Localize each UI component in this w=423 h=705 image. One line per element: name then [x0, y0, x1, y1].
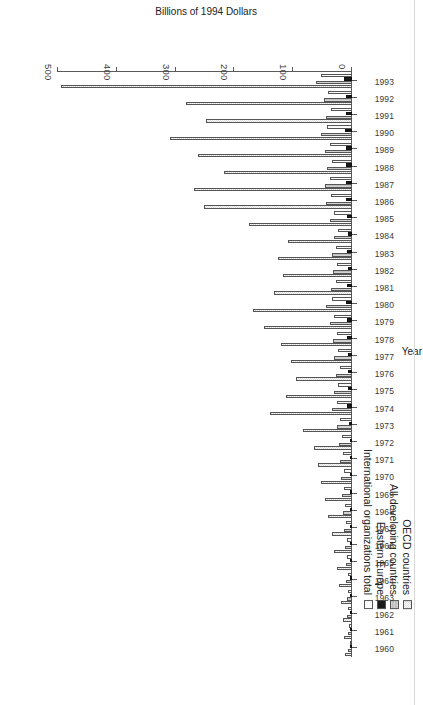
year-label: 1983	[360, 249, 394, 259]
category-tick	[352, 544, 357, 545]
bar	[346, 521, 352, 524]
bar	[296, 377, 352, 380]
plot-area: 0100200300400500 19601961196219631964196…	[58, 72, 352, 657]
category-tick	[352, 613, 357, 614]
bar	[332, 532, 352, 535]
bar	[338, 349, 352, 352]
category-tick	[352, 114, 357, 115]
bar	[337, 332, 352, 335]
value-tick-label: 300	[161, 64, 172, 80]
bar	[303, 429, 352, 432]
bar	[328, 515, 352, 518]
bar	[253, 309, 352, 312]
category-tick	[352, 234, 357, 235]
bar	[349, 422, 352, 425]
bar	[347, 538, 352, 541]
year-label: 1960	[360, 644, 394, 654]
value-tick-label: 0	[337, 64, 348, 69]
bar	[346, 563, 352, 566]
year-label: 1984	[360, 231, 394, 241]
bar	[350, 645, 352, 648]
year-label: 1992	[360, 94, 394, 104]
bar	[350, 473, 352, 476]
year-label: 1961	[360, 627, 394, 637]
bar	[336, 246, 352, 249]
bar	[274, 291, 352, 294]
bar	[341, 601, 352, 604]
year-label: 1964	[360, 576, 394, 586]
value-axis-title: Billions of 1994 Dollars	[155, 6, 257, 17]
year-label: 1970	[360, 472, 394, 482]
bar	[330, 177, 352, 180]
bar	[342, 435, 352, 438]
bar	[337, 567, 352, 570]
bar	[336, 280, 352, 283]
bar	[325, 150, 352, 153]
bar	[332, 297, 352, 300]
legend-label: International organizations total	[362, 449, 374, 595]
value-tick	[351, 67, 352, 72]
category-tick	[352, 252, 357, 253]
bar	[336, 374, 352, 377]
bar	[350, 525, 352, 528]
bar	[346, 301, 352, 304]
bar	[286, 395, 352, 398]
bar	[350, 559, 352, 562]
bar	[339, 443, 352, 446]
bar	[348, 267, 352, 270]
year-label: 1972	[360, 438, 394, 448]
year-label: 1969	[360, 490, 394, 500]
bar	[330, 322, 352, 325]
bar	[325, 184, 352, 187]
bar	[337, 401, 352, 404]
bar	[332, 253, 352, 256]
category-tick	[352, 80, 357, 81]
bar	[350, 576, 352, 579]
bar	[334, 550, 352, 553]
category-tick	[352, 166, 357, 167]
bar	[339, 584, 352, 587]
bar	[314, 446, 352, 449]
bar	[344, 636, 352, 639]
bar	[346, 580, 352, 583]
bar	[186, 102, 352, 105]
bar	[343, 452, 352, 455]
bar	[224, 171, 352, 174]
bar	[328, 91, 352, 94]
value-tick-label: 400	[102, 64, 113, 80]
bar	[345, 546, 352, 549]
bar	[345, 504, 352, 507]
category-tick	[352, 183, 357, 184]
bar	[343, 511, 352, 514]
bar	[337, 263, 352, 266]
bar	[330, 219, 352, 222]
category-tick	[352, 355, 357, 356]
bar	[347, 250, 352, 253]
year-label: 1967	[360, 524, 394, 534]
bar	[194, 188, 352, 191]
rotated-figure-frame: OECD countriesAll developing countriesEa…	[0, 0, 423, 705]
category-tick	[352, 217, 357, 218]
bar	[344, 487, 352, 490]
category-tick	[352, 97, 357, 98]
bar	[347, 555, 352, 558]
bar	[348, 573, 352, 576]
bar	[348, 607, 352, 610]
bar	[346, 112, 352, 115]
bar	[326, 202, 352, 205]
value-tick	[233, 67, 234, 72]
value-tick	[292, 67, 293, 72]
value-tick	[116, 67, 117, 72]
year-label: 1976	[360, 369, 394, 379]
category-tick	[352, 372, 357, 373]
value-tick	[175, 67, 176, 72]
year-label: 1993	[360, 77, 394, 87]
value-tick	[57, 67, 58, 72]
bar	[334, 357, 352, 360]
bar	[321, 133, 352, 136]
year-label: 1965	[360, 558, 394, 568]
bar	[318, 464, 352, 467]
category-tick	[352, 424, 357, 425]
category-tick	[352, 200, 357, 201]
bar	[350, 508, 352, 511]
